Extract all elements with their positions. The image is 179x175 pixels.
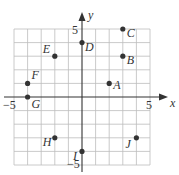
point-label-h: H	[42, 135, 53, 149]
point-e	[52, 54, 57, 59]
point-g	[25, 94, 30, 99]
point-i	[79, 149, 84, 154]
point-label-c: C	[127, 26, 136, 40]
x-axis-arrow-icon	[159, 94, 168, 101]
point-label-f: F	[31, 68, 40, 82]
point-d	[79, 40, 84, 45]
point-h	[52, 135, 57, 140]
point-f	[25, 81, 30, 86]
coordinate-plane: x y −5 5 5 −5 ABCDEFGHIJ	[0, 0, 179, 175]
point-j	[134, 135, 139, 140]
point-b	[120, 54, 125, 59]
point-label-d: D	[84, 40, 94, 54]
x-tick-min: −5	[3, 98, 16, 112]
y-tick-max: 5	[72, 23, 78, 37]
x-tick-max: 5	[146, 98, 152, 112]
point-label-j: J	[125, 137, 131, 151]
point-label-b: B	[127, 53, 135, 67]
y-axis-label: y	[87, 8, 94, 22]
point-c	[120, 26, 125, 31]
x-axis-label: x	[169, 96, 176, 110]
y-axis-arrow-icon	[79, 12, 86, 21]
point-a	[107, 81, 112, 86]
point-label-g: G	[32, 97, 41, 111]
point-label-e: E	[42, 42, 51, 56]
point-label-a: A	[112, 78, 121, 92]
